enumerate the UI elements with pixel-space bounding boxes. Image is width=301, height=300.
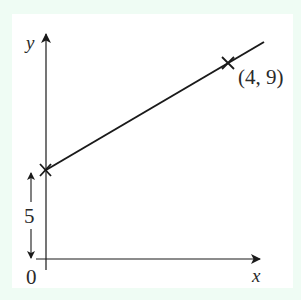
point-cross-icon [222, 57, 234, 69]
y-axis-label: y [24, 32, 35, 53]
point-label: (4, 9) [238, 65, 284, 89]
x-axis-label: x [251, 265, 261, 286]
coordinate-diagram: y x 0 5 (4, 9) [0, 0, 301, 300]
origin-label: 0 [26, 265, 37, 289]
intercept-dimension-label: 5 [24, 204, 35, 228]
graph-line [46, 42, 264, 170]
